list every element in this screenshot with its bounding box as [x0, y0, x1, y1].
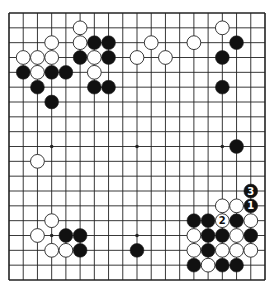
white-stone-circle	[59, 243, 73, 257]
black-stone	[31, 80, 45, 94]
black-stone	[73, 229, 87, 243]
black-stone	[187, 214, 201, 228]
white-stone-circle	[215, 21, 229, 35]
black-stone-circle	[187, 214, 201, 228]
black-stone	[102, 80, 116, 94]
white-stone-circle	[159, 51, 173, 65]
white-stone	[45, 36, 59, 50]
black-stone	[230, 36, 244, 50]
black-stone-circle	[215, 51, 229, 65]
black-stone	[102, 36, 116, 50]
black-stone: 1	[244, 199, 258, 213]
white-stone-circle	[230, 243, 244, 257]
black-stone	[201, 214, 215, 228]
white-stone	[187, 36, 201, 50]
black-stone-circle	[230, 214, 244, 228]
white-stone-circle	[201, 258, 215, 272]
black-stone-circle	[201, 229, 215, 243]
white-stone-circle	[187, 243, 201, 257]
black-stone-circle	[31, 80, 45, 94]
star-point	[221, 145, 225, 149]
black-stone	[16, 65, 30, 79]
black-stone	[230, 214, 244, 228]
white-stone-circle	[187, 229, 201, 243]
black-stone-circle	[73, 51, 87, 65]
white-stone-circle	[73, 36, 87, 50]
move-number-label: 1	[247, 200, 254, 211]
white-stone	[59, 243, 73, 257]
white-stone-circle	[87, 65, 101, 79]
move-number-label: 2	[219, 215, 226, 226]
black-stone	[244, 229, 258, 243]
white-stone	[16, 51, 30, 65]
go-board: 312	[0, 0, 275, 289]
black-stone-circle	[215, 258, 229, 272]
black-stone-circle	[87, 80, 101, 94]
black-stone-circle	[244, 229, 258, 243]
black-stone-circle	[215, 229, 229, 243]
white-stone	[215, 243, 229, 257]
black-stone	[45, 95, 59, 109]
white-stone-circle	[73, 21, 87, 35]
white-stone	[45, 243, 59, 257]
black-stone	[201, 243, 215, 257]
black-stone-circle	[45, 65, 59, 79]
black-stone	[45, 65, 59, 79]
black-stone-circle	[201, 214, 215, 228]
white-stone	[130, 51, 144, 65]
black-stone-circle	[73, 243, 87, 257]
black-stone	[102, 51, 116, 65]
black-stone	[87, 36, 101, 50]
white-stone	[230, 199, 244, 213]
white-stone-circle	[187, 36, 201, 50]
white-stone	[45, 51, 59, 65]
black-stone	[187, 258, 201, 272]
white-stone	[244, 243, 258, 257]
white-stone: 2	[215, 214, 229, 228]
black-stone	[73, 51, 87, 65]
white-stone	[230, 229, 244, 243]
white-stone-circle	[215, 243, 229, 257]
white-stone-circle	[130, 51, 144, 65]
black-stone-circle	[45, 95, 59, 109]
white-stone-circle	[31, 229, 45, 243]
white-stone	[187, 229, 201, 243]
black-stone	[87, 80, 101, 94]
white-stone	[31, 229, 45, 243]
black-stone-circle	[201, 243, 215, 257]
white-stone	[73, 21, 87, 35]
white-stone	[31, 154, 45, 168]
white-stone	[45, 214, 59, 228]
star-point	[135, 234, 139, 238]
white-stone-circle	[45, 214, 59, 228]
black-stone	[73, 243, 87, 257]
white-stone	[144, 36, 158, 50]
black-stone-circle	[102, 80, 116, 94]
white-stone-circle	[244, 243, 258, 257]
white-stone-circle	[31, 65, 45, 79]
black-stone-circle	[73, 229, 87, 243]
black-stone-circle	[230, 258, 244, 272]
white-stone	[159, 51, 173, 65]
black-stone-circle	[59, 229, 73, 243]
black-stone-circle	[215, 80, 229, 94]
white-stone-circle	[215, 199, 229, 213]
white-stone-circle	[87, 51, 101, 65]
black-stone	[230, 258, 244, 272]
black-stone-circle	[87, 36, 101, 50]
white-stone-circle	[144, 36, 158, 50]
white-stone-circle	[230, 229, 244, 243]
black-stone	[215, 258, 229, 272]
white-stone	[215, 21, 229, 35]
white-stone-circle	[230, 199, 244, 213]
black-stone-circle	[16, 65, 30, 79]
black-stone-circle	[230, 36, 244, 50]
white-stone-circle	[31, 51, 45, 65]
star-point	[50, 145, 54, 149]
white-stone	[87, 51, 101, 65]
white-stone-circle	[45, 51, 59, 65]
black-stone-circle	[102, 36, 116, 50]
white-stone	[31, 51, 45, 65]
black-stone	[215, 229, 229, 243]
white-stone	[73, 36, 87, 50]
